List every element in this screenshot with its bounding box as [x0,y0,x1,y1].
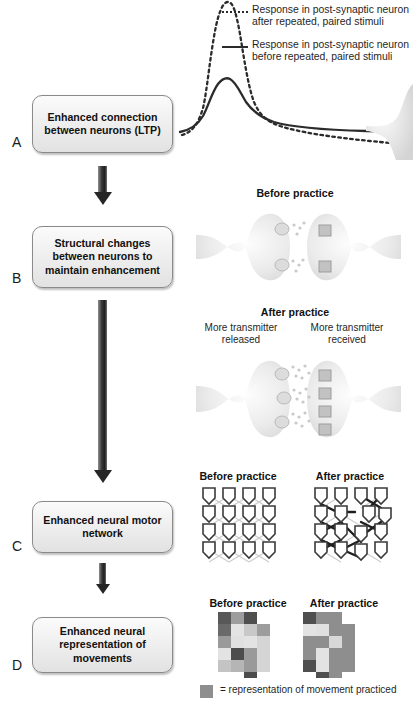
vesicle [275,223,289,235]
synapse-after-right-caption: More transmitter received [299,322,395,345]
flow-box-b[interactable]: Structural changes between neurons to ma… [32,226,173,288]
arrow-b-to-c-head [94,470,112,483]
heatmap-cells [218,612,270,678]
synapse-after-title: After practice [215,306,375,318]
vesicle [275,259,289,271]
arrow-b-to-c-shaft [98,300,107,472]
representation-legend-text: = representation of movement practiced [220,684,396,696]
flow-box-a-letter: A [12,134,21,150]
network-before-grid [197,486,282,564]
flow-box-d-letter: D [12,657,22,673]
flow-box-d-label: Enhanced neural representation of moveme… [39,625,166,665]
network-before-title: Before practice [188,470,288,482]
network-connections-weak [209,496,269,562]
receptor [319,261,331,272]
curve-before-solid [180,78,398,132]
receptor [319,370,331,381]
presynaptic-terminal [196,214,290,281]
flow-box-c[interactable]: Enhanced neural motor network [32,501,173,553]
response-curve-chart [170,0,413,160]
representation-swatch-icon [200,685,213,698]
synapse-before-diagram [196,203,401,291]
vesicle [275,416,289,428]
arrow-a-to-b-head [94,192,112,205]
heatmap-cells [303,612,355,678]
representation-before-title: Before practice [198,597,298,609]
flow-box-b-label: Structural changes between neurons to ma… [39,237,166,277]
synapse-before-title: Before practice [215,187,375,199]
flow-box-a-label: Enhanced connection between neurons (LTP… [39,111,166,137]
receptor [319,225,331,236]
arrow-c-to-d-head [96,584,110,594]
representation-before-heatmap [218,612,280,678]
flow-box-a[interactable]: Enhanced connection between neurons (LTP… [32,95,173,153]
representation-legend: = representation of movement practiced [200,684,396,698]
vesicle [277,392,291,404]
receptor [319,388,331,399]
flow-box-d[interactable]: Enhanced neural representation of moveme… [32,617,173,673]
flow-box-b-letter: B [12,270,21,286]
arrow-a-to-b-shaft [98,166,107,193]
vesicle [275,368,289,380]
network-after-title: After practice [300,470,400,482]
flow-box-c-label: Enhanced neural motor network [39,514,166,540]
arrow-c-to-d-shaft [99,563,106,585]
synapse-after-diagram [196,352,401,446]
network-after-grid [309,486,394,564]
representation-after-heatmap [303,612,365,678]
axon-terminal-shape [366,84,413,160]
receptor [319,424,331,435]
representation-after-title: After practice [294,597,394,609]
neurotransmitter-dots [291,221,305,272]
flow-box-c-letter: C [12,538,22,554]
receptor [319,406,331,417]
curve-after-dashed [182,2,402,144]
synapse-after-left-caption: More transmitter released [193,322,289,345]
network-neurons [315,488,391,560]
